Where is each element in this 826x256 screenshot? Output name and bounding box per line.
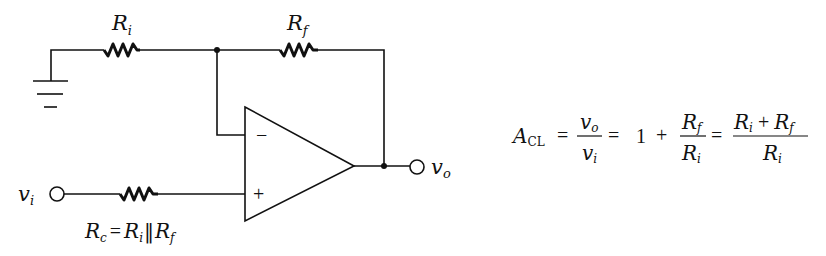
rc-equation: Rc=Ri‖Rf [84,219,177,245]
label-vi: vi [18,182,34,208]
equals-3: = [711,124,722,146]
wire-ground-to-ri [51,50,104,81]
frac1-den: vi [582,141,597,166]
frac1-num: vo [580,110,599,135]
label-ri: Ri [111,11,132,38]
equals-2: = [608,124,619,146]
junction-node-output [381,163,387,169]
resistor-rf [280,44,318,56]
resistor-rc [120,188,158,200]
wire-to-minus-input [217,50,245,135]
gain-equation: ACL = vo vi = 1 + Rf Ri = Ri+Rf Ri [511,110,808,166]
input-terminal [50,187,64,201]
frac2-num: Rf [681,110,704,135]
plus-1: + [656,124,667,146]
resistor-ri [104,44,140,56]
gain-symbol: ACL [511,124,545,149]
frac2-den: Ri [681,141,701,166]
wire-feedback [318,50,384,167]
frac3-num: Ri+Rf [733,110,796,135]
one: 1 [636,125,646,147]
opamp-plus-sign: + [253,183,264,205]
equals-1: = [557,124,568,146]
label-vo: vo [431,155,451,181]
opamp-minus-sign: − [256,124,267,146]
circuit-diagram: − + Ri Rf vi vo Rc=Ri‖Rf ACL = vo vi = 1… [0,0,826,256]
label-rf: Rf [286,11,310,38]
frac3-den: Ri [762,141,782,166]
ground-icon [33,81,68,107]
output-terminal [410,160,424,174]
